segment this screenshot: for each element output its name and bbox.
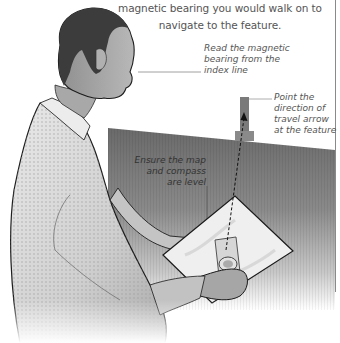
intro-line-2: navigate to the feature. xyxy=(100,17,340,34)
callout-point-arrow: Point the direction of travel arrow at t… xyxy=(274,92,336,136)
callout-line: and compass xyxy=(120,166,206,177)
callout-line: bearing from the xyxy=(204,54,290,65)
callout-line: Ensure the map xyxy=(120,155,206,166)
callout-line: at the feature xyxy=(274,125,336,136)
callout-line: Read the magnetic xyxy=(204,43,290,54)
intro-text: magnetic bearing you would walk on to na… xyxy=(100,0,340,34)
callout-line: index line xyxy=(204,65,290,76)
callout-line: direction of xyxy=(274,103,336,114)
callout-read-bearing: Read the magnetic bearing from the index… xyxy=(204,43,290,76)
callout-line: travel arrow xyxy=(274,114,336,125)
callout-line: Point the xyxy=(274,92,336,103)
callout-level: Ensure the map and compass are level xyxy=(120,155,206,188)
callout-line: are level xyxy=(120,177,206,188)
illustration-panel: magnetic bearing you would walk on to na… xyxy=(0,0,340,343)
intro-line-1: magnetic bearing you would walk on to xyxy=(100,0,340,17)
